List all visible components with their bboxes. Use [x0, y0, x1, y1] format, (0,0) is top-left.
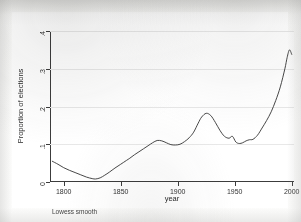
x-tick-mark	[235, 182, 236, 186]
x-tick-label: 1800	[56, 188, 72, 195]
plot-area: 0.1.2.3.4 18001850190019502000	[50, 31, 294, 182]
x-tick-label: 2000	[284, 188, 300, 195]
figure-container: 0.1.2.3.4 18001850190019502000 Proportio…	[0, 0, 301, 222]
y-tick-label: .1	[40, 144, 47, 150]
y-tick-mark	[46, 144, 50, 145]
y-tick-mark	[46, 182, 50, 183]
y-tick-label: .3	[40, 69, 47, 75]
y-tick-mark	[46, 107, 50, 108]
lowess-curve	[50, 31, 294, 182]
x-tick-mark	[292, 182, 293, 186]
x-tick-mark	[64, 182, 65, 186]
y-axis-label: Proportion of elections	[16, 69, 25, 144]
y-tick-label: 0	[40, 182, 47, 186]
y-tick-label: .2	[40, 107, 47, 113]
y-tick-mark	[46, 69, 50, 70]
lowess-curve-path	[52, 50, 291, 179]
x-tick-label: 1950	[227, 188, 243, 195]
x-tick-mark	[178, 182, 179, 186]
x-tick-mark	[121, 182, 122, 186]
y-tick-label: .4	[40, 31, 47, 37]
plot-canvas: 0.1.2.3.4 18001850190019502000 Proportio…	[12, 12, 288, 208]
x-axis-label: year	[165, 194, 180, 203]
x-tick-label: 1850	[113, 188, 129, 195]
chart-annotation-note: Lowess smooth	[52, 208, 97, 215]
y-tick-mark	[46, 31, 50, 32]
